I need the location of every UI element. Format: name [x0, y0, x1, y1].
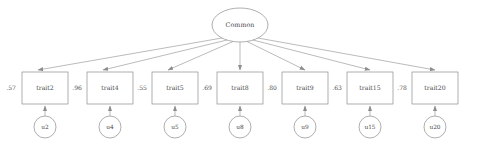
indicator-label: trait15: [359, 84, 381, 91]
loading-edges: [38, 38, 435, 70]
residual-label: u8: [236, 124, 244, 130]
indicator-label: trait2: [36, 84, 54, 91]
indicator-node-trait5[interactable]: trait5: [152, 72, 198, 104]
residual-edges: [45, 106, 435, 116]
indicator-node-trait15[interactable]: trait15: [347, 72, 393, 104]
latent-node-common[interactable]: Common: [212, 8, 268, 42]
indicator-label: trait20: [424, 84, 446, 91]
loading-coefficient-trait4: .96: [72, 84, 82, 91]
loading-edge-trait2: [38, 38, 222, 70]
residual-node-u20[interactable]: u20: [424, 116, 446, 138]
loading-edge-trait4: [103, 40, 227, 70]
residual-nodes: u2 u4 u5 u8 u9 u15: [34, 116, 446, 138]
indicator-label: trait9: [296, 84, 314, 91]
latent-label: Common: [226, 21, 255, 29]
loading-edge-trait20: [258, 38, 435, 70]
residual-node-u5[interactable]: u5: [164, 116, 186, 138]
loading-coefficient-trait20: .78: [397, 84, 407, 91]
indicator-label: trait4: [101, 84, 119, 91]
residual-label: u5: [171, 124, 179, 130]
indicator-label: trait5: [166, 84, 184, 91]
residual-label: u20: [429, 124, 440, 130]
residual-label: u15: [364, 124, 375, 130]
path-diagram-svg: Common trait2 trait4 trait5 trait8 t: [0, 0, 477, 146]
indicator-node-trait9[interactable]: trait9: [282, 72, 328, 104]
indicator-node-trait2[interactable]: trait2: [22, 72, 68, 104]
residual-label: u2: [41, 124, 49, 130]
loading-coefficient-trait15: .63: [332, 84, 342, 91]
indicator-node-trait4[interactable]: trait4: [87, 72, 133, 104]
loading-coefficient-trait5: .55: [137, 84, 147, 91]
indicator-nodes: trait2 trait4 trait5 trait8 trait9 trait…: [22, 72, 458, 104]
loading-coefficient-trait2: .57: [6, 84, 16, 91]
residual-node-u15[interactable]: u15: [359, 116, 381, 138]
residual-label: u9: [301, 124, 309, 130]
indicator-node-trait8[interactable]: trait8: [217, 72, 263, 104]
path-diagram-canvas: Common trait2 trait4 trait5 trait8 t: [0, 0, 477, 146]
residual-node-u2[interactable]: u2: [34, 116, 56, 138]
indicator-label: trait8: [231, 84, 249, 91]
loading-coefficient-trait9: .80: [267, 84, 277, 91]
residual-node-u4[interactable]: u4: [99, 116, 121, 138]
loading-coefficient-trait8: .69: [202, 84, 212, 91]
residual-node-u9[interactable]: u9: [294, 116, 316, 138]
residual-node-u8[interactable]: u8: [229, 116, 251, 138]
indicator-node-trait20[interactable]: trait20: [412, 72, 458, 104]
residual-label: u4: [106, 124, 114, 130]
